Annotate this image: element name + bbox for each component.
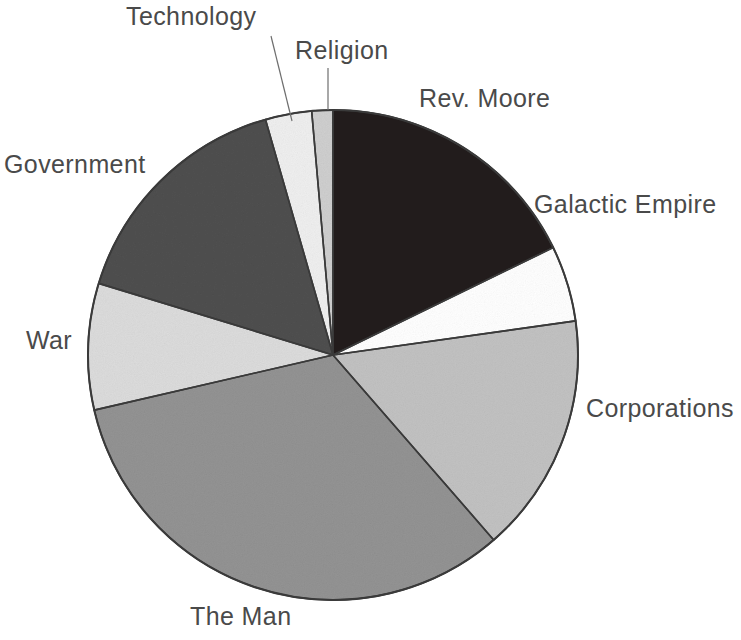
pie-label-war: War [26,328,72,353]
pie-label-rev-moore: Rev. Moore [419,86,550,111]
pie-label-galactic-empire: Galactic Empire [534,192,716,217]
pie-label-the-man: The Man [190,604,291,629]
leader-line-technology [271,36,292,121]
pie-label-government: Government [4,152,146,177]
pie-chart-page: Technology Religion Rev. Moore Galactic … [0,0,741,640]
pie-chart-figure [0,0,741,640]
pie-label-religion: Religion [295,38,389,63]
pie-label-corporations: Corporations [586,396,734,421]
pie-label-technology: Technology [126,4,256,29]
